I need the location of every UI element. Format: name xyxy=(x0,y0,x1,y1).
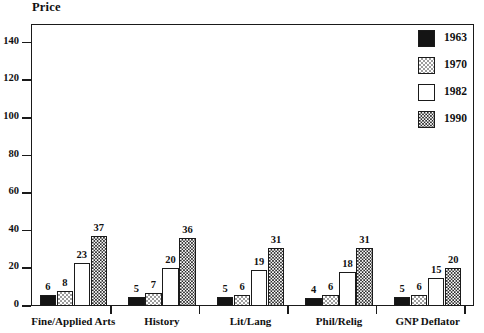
bar-value-label: 5 xyxy=(134,283,139,294)
bar xyxy=(162,268,179,306)
bar-value-label: 23 xyxy=(77,249,88,260)
y-tick-mark xyxy=(22,267,31,269)
x-axis-tick xyxy=(464,306,466,314)
bar-value-label: 31 xyxy=(271,234,282,245)
y-tick-label: 140 xyxy=(3,35,19,46)
y-tick-mark xyxy=(22,117,31,119)
bar-value-label: 20 xyxy=(448,254,459,265)
bar-value-label: 37 xyxy=(94,222,105,233)
bar-value-label: 31 xyxy=(359,234,370,245)
bar-value-label: 15 xyxy=(431,264,442,275)
bar xyxy=(128,297,145,306)
legend-swatch-icon xyxy=(418,57,435,74)
bar xyxy=(428,278,445,306)
legend-label: 1970 xyxy=(444,58,467,70)
y-tick-mark xyxy=(22,305,31,307)
bar xyxy=(74,263,91,306)
bar xyxy=(145,293,162,306)
y-tick-label: 60 xyxy=(9,185,20,196)
x-axis-category-label: Phil/Relig xyxy=(316,315,362,327)
bar xyxy=(217,297,234,306)
x-axis-tick xyxy=(110,306,112,314)
bar xyxy=(91,236,108,306)
bar xyxy=(445,268,462,306)
x-axis-category-label: Fine/Applied Arts xyxy=(31,315,115,327)
y-tick-mark xyxy=(22,155,31,157)
legend-label: 1963 xyxy=(444,31,467,43)
x-axis-tick xyxy=(287,306,289,314)
bar xyxy=(40,295,57,306)
y-tick-mark xyxy=(22,230,31,232)
y-tick-mark xyxy=(22,79,31,81)
bar-value-label: 18 xyxy=(342,258,353,269)
bar xyxy=(179,238,196,306)
bar xyxy=(356,248,373,306)
bar-value-label: 4 xyxy=(311,284,316,295)
legend-swatch-icon xyxy=(418,30,435,47)
bar-value-label: 6 xyxy=(45,281,50,292)
bar xyxy=(339,272,356,306)
x-axis-tick xyxy=(199,306,201,314)
y-tick-label: 0 xyxy=(14,298,19,309)
bar-value-label: 6 xyxy=(239,281,244,292)
bar-value-label: 6 xyxy=(328,281,333,292)
bar xyxy=(234,295,251,306)
legend-label: 1982 xyxy=(444,85,467,97)
legend-label: 1990 xyxy=(444,112,467,124)
y-tick-label: 80 xyxy=(9,148,20,159)
y-tick-mark xyxy=(22,42,31,44)
bar-value-label: 36 xyxy=(182,224,193,235)
bar-value-label: 20 xyxy=(165,254,176,265)
bar-value-label: 7 xyxy=(151,279,156,290)
bar xyxy=(57,291,74,306)
y-tick-label: 20 xyxy=(9,260,20,271)
legend-swatch-icon xyxy=(418,84,435,101)
y-axis-title: Price xyxy=(32,0,61,15)
bar xyxy=(305,298,322,306)
bar-value-label: 5 xyxy=(400,283,405,294)
bar xyxy=(268,248,285,306)
x-axis-category-label: History xyxy=(144,315,179,327)
x-axis-category-label: Lit/Lang xyxy=(230,315,272,327)
bar-value-label: 5 xyxy=(222,283,227,294)
bar-value-label: 8 xyxy=(62,277,67,288)
bar xyxy=(411,295,428,306)
bar-value-label: 6 xyxy=(417,281,422,292)
bar xyxy=(322,295,339,306)
bar xyxy=(394,297,411,306)
y-tick-mark xyxy=(22,192,31,194)
bar-value-label: 19 xyxy=(254,256,265,267)
x-axis-category-label: GNP Deflator xyxy=(395,315,459,327)
x-axis-tick xyxy=(376,306,378,314)
y-tick-label: 40 xyxy=(9,223,20,234)
bar xyxy=(251,270,268,306)
legend-swatch-icon xyxy=(418,111,435,128)
y-tick-label: 120 xyxy=(3,72,19,83)
bar-chart: Price 020406080100120140 682337572036561… xyxy=(0,0,484,333)
y-tick-label: 100 xyxy=(3,110,19,121)
